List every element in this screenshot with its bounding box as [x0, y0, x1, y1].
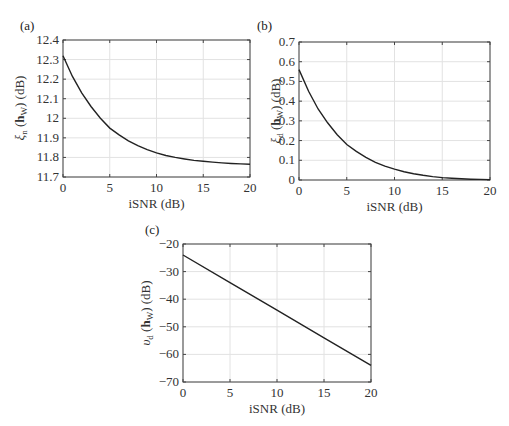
x-axis-label: iSNR (dB) — [249, 401, 305, 416]
y-tick-label: −60 — [159, 346, 179, 361]
x-tick-label: 20 — [484, 183, 497, 198]
x-tick-label: 0 — [60, 180, 67, 195]
x-tick-label: 15 — [197, 180, 210, 195]
y-tick-label: 11.8 — [37, 149, 59, 164]
y-tick-label: 11.7 — [37, 169, 60, 184]
x-tick-label: 20 — [244, 180, 257, 195]
chart-panel-a: 0510152011.711.811.91212.112.212.312.4iS… — [12, 32, 257, 211]
figure-canvas: 0510152011.711.811.91212.112.212.312.4iS… — [0, 0, 509, 426]
y-axis-label: ξd (hW) (dB) — [268, 79, 285, 144]
y-tick-label: 0 — [289, 172, 296, 187]
y-tick-label: 12.4 — [36, 32, 59, 47]
y-tick-label: −30 — [159, 264, 179, 279]
x-tick-label: 10 — [388, 183, 401, 198]
y-tick-label: 0.7 — [279, 34, 296, 49]
y-tick-label: 12 — [46, 110, 59, 125]
x-tick-label: 20 — [365, 385, 378, 400]
x-tick-label: 15 — [318, 385, 331, 400]
y-tick-label: 12.3 — [36, 52, 59, 67]
y-axis-label: υd (hW) (dB) — [138, 280, 155, 345]
y-tick-label: −20 — [159, 236, 179, 251]
x-axis-label: iSNR (dB) — [129, 196, 185, 211]
x-tick-label: 10 — [271, 385, 284, 400]
y-tick-label: 12.2 — [36, 71, 59, 86]
y-tick-label: −70 — [159, 374, 179, 389]
y-tick-label: −40 — [159, 291, 179, 306]
x-tick-label: 15 — [436, 183, 449, 198]
y-tick-label: 11.9 — [37, 130, 59, 145]
x-tick-label: 0 — [180, 385, 187, 400]
y-tick-label: 0.6 — [279, 54, 296, 69]
y-tick-label: 0.1 — [279, 152, 295, 167]
chart-panel-c: 05101520−70−60−50−40−30−20iSNR (dB)υd (h… — [138, 236, 378, 416]
x-tick-label: 5 — [344, 183, 351, 198]
x-tick-label: 10 — [150, 180, 163, 195]
y-tick-label: 12.1 — [36, 91, 59, 106]
chart-panel-b: 0510152000.10.20.30.40.50.60.7iSNR (dB)ξ… — [268, 34, 497, 214]
y-axis-label: ξn (hW) (dB) — [12, 76, 29, 141]
x-tick-label: 5 — [107, 180, 114, 195]
x-axis-label: iSNR (dB) — [367, 199, 423, 214]
x-tick-label: 0 — [296, 183, 303, 198]
x-tick-label: 5 — [227, 385, 234, 400]
y-tick-label: −50 — [159, 319, 179, 334]
